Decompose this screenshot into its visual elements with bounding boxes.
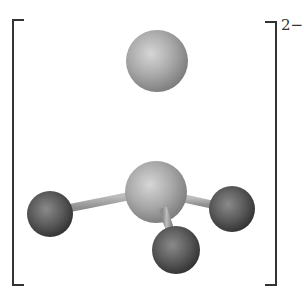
bottom-atom: [152, 226, 200, 274]
ion-charge-label: 2−: [281, 18, 303, 33]
tetrahedral-ion-diagram: [0, 0, 304, 289]
left-bracket: [13, 20, 24, 285]
left-atom: [27, 191, 73, 237]
center-atom: [125, 161, 187, 223]
top-atom: [126, 30, 188, 92]
atoms: [27, 30, 255, 274]
right-bracket: [265, 22, 276, 285]
bond-center-left: [70, 196, 130, 208]
bond-center-right: [182, 198, 214, 205]
right-atom: [209, 186, 255, 232]
